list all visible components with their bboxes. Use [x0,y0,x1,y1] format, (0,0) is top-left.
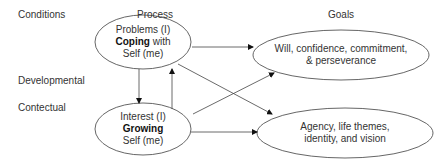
coping-rest: with [150,36,171,47]
growing-bold: Growing [123,123,164,134]
label-contectual: Contectual [18,102,66,113]
header-process: Process [137,9,173,20]
edge-growing-to-will [193,73,274,114]
coping-line1: Problems (I) [95,24,191,36]
header-goals: Goals [328,9,354,20]
will-line1: Will, confidence, commitment, [253,43,429,55]
growing-line2: Growing [95,123,191,135]
agency-line1: Agency, life themes, [257,121,433,133]
agency-node: Agency, life themes, identity, and visio… [257,121,433,145]
growing-line3: Self (me) [95,135,191,147]
coping-line2: Coping with [95,36,191,48]
coping-bold: Coping [116,36,150,47]
growing-node: Interest (I) Growing Self (me) [95,111,191,147]
agency-line2: identity, and vision [257,133,433,145]
coping-node: Problems (I) Coping with Self (me) [95,24,191,60]
coping-line3: Self (me) [95,48,191,60]
edge-coping-to-agency [178,64,272,114]
will-line2: & perseverance [253,55,429,67]
header-conditions: Conditions [18,9,65,20]
growing-line1: Interest (I) [95,111,191,123]
will-node: Will, confidence, commitment, & persever… [253,43,429,67]
label-developmental: Developmental [18,75,85,86]
